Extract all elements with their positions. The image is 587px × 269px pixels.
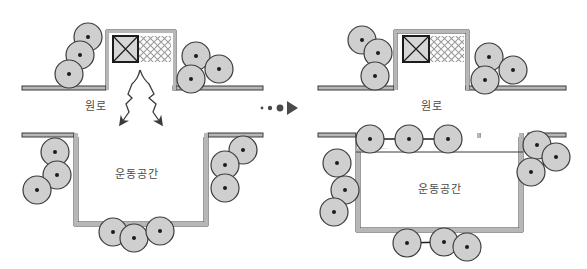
node-center-dot: [487, 55, 491, 59]
lower-ground-line-left: [318, 133, 356, 137]
right-panel: 원로: [318, 26, 570, 261]
sunken-room-left-wall: [74, 133, 78, 226]
lower-ground-line-right: [208, 133, 263, 137]
node-center-dot: [360, 38, 364, 42]
upper-left-cluster: [348, 26, 392, 90]
lower-right-cluster: [211, 136, 257, 202]
building-left-fill: [394, 30, 397, 90]
left-panel: 원로 운동공간: [22, 23, 263, 252]
node-center-dot: [194, 54, 198, 58]
lower-bottom-cluster: [393, 228, 481, 261]
node-center-dot: [67, 72, 71, 76]
node-center-dot: [223, 163, 227, 167]
transition-dot-medium: [268, 106, 272, 110]
zigzag-arrow-right-path: [140, 70, 160, 122]
node-center-dot: [373, 74, 377, 78]
node-center-dot: [189, 77, 193, 81]
node-center-dot: [483, 78, 487, 82]
node-center-dot: [343, 188, 347, 192]
label-exercise-space-right: 운동공간: [418, 183, 463, 196]
building-top-fill: [394, 30, 469, 33]
node-center-dot: [132, 236, 136, 240]
node-center-dot: [86, 35, 90, 39]
transition-dot-small: [261, 107, 264, 110]
node-center-dot: [217, 67, 221, 71]
node-center-dot: [35, 188, 39, 192]
upper-left-cluster: [55, 23, 102, 88]
upper-right-cluster: [177, 42, 233, 93]
zigzag-arrow-left-path: [122, 70, 140, 122]
node-center-dot: [511, 68, 515, 72]
label-wonro-left: 원로: [85, 100, 107, 113]
sunken-room-right-wall: [204, 133, 208, 226]
lower-ground-line-left: [22, 133, 74, 137]
triangle-right-icon: [287, 101, 298, 115]
node-center-dot: [332, 210, 336, 214]
building-right-fill: [466, 30, 469, 90]
node-center-dot: [53, 150, 57, 154]
node-center-dot: [405, 241, 409, 245]
zigzag-arrow-left: [122, 70, 140, 122]
node-center-dot: [368, 137, 372, 141]
mesh-hatch-panel: [430, 36, 464, 62]
building-left-fill: [106, 30, 109, 90]
transition-dot-large: [277, 105, 284, 112]
mesh-hatch-panel: [138, 36, 171, 62]
shelf-row-cluster: [356, 125, 462, 153]
diagram-svg: 원로 운동공간: [0, 0, 587, 269]
transition-marker: [261, 101, 298, 115]
node-center-dot: [376, 51, 380, 55]
node-center-dot: [335, 161, 339, 165]
node-center-dot: [241, 148, 245, 152]
lower-right-cluster: [517, 131, 570, 186]
node-center-dot: [223, 186, 227, 190]
lower-left-cluster: [23, 138, 71, 204]
node-center-dot: [535, 143, 539, 147]
node-center-dot: [407, 137, 411, 141]
lower-left-cluster: [320, 149, 359, 226]
node-center-dot: [111, 230, 115, 234]
node-center-dot: [78, 53, 82, 57]
building-top-fill: [106, 30, 176, 33]
label-exercise-space-left: 운동공간: [115, 168, 160, 181]
node-center-dot: [55, 173, 59, 177]
zigzag-arrow-right: [140, 70, 160, 122]
node-center-dot: [529, 170, 533, 174]
building-right-fill: [173, 30, 176, 90]
node-center-dot: [446, 137, 450, 141]
node-center-dot: [158, 229, 162, 233]
node-center-dot: [554, 155, 558, 159]
node-center-dot: [465, 245, 469, 249]
diagram-canvas: 원로 운동공간: [0, 0, 587, 269]
node-center-dot: [442, 240, 446, 244]
label-wonro-right: 원로: [421, 100, 443, 113]
